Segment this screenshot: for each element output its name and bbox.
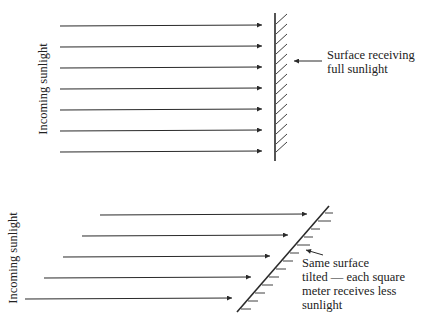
sunlight-ray-arrow [25,298,232,299]
sunlight-ray-arrow [60,88,262,89]
sunlight-ray-arrow [100,214,307,215]
top-surface-label-line1: Surface receiving [327,48,415,62]
top-sunlight-rays [60,25,262,152]
sunlight-ray-arrow [60,130,262,131]
bottom-surface-label-line2: tilted — each square [302,270,405,284]
surface-hatching [276,14,287,152]
top-panel [60,13,322,161]
sunlight-ray-arrow [60,25,262,26]
bottom-surface-label-line4: sunlight [302,298,405,312]
sunlight-ray-arrow [82,235,288,236]
top-incoming-sunlight-label: Incoming sunlight [36,43,51,134]
top-surface-label: Surface receiving full sunlight [327,48,415,76]
sunlight-ray-arrow [60,151,262,152]
bottom-surface-label-line3: meter receives less [302,284,405,298]
sunlight-ray-arrow [44,277,251,278]
sunlight-ray-arrow [63,256,270,257]
top-surface-label-line2: full sunlight [327,62,415,76]
sunlight-ray-arrow [60,67,262,68]
bottom-incoming-sunlight-label: Incoming sunlight [6,212,21,303]
sunlight-ray-arrow [60,109,262,110]
perpendicular-surface [275,13,287,161]
bottom-surface-label: Same surface tilted — each square meter … [302,256,405,312]
bottom-surface-label-line1: Same surface [302,256,405,270]
bottom-panel [25,206,333,312]
bottom-sunlight-rays [25,214,307,299]
sunlight-ray-arrow [60,46,262,47]
bottom-label-pointer-arrow [306,250,323,255]
